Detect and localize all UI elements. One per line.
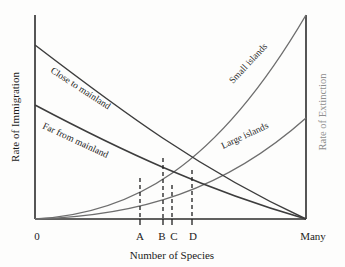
x-axis-title: Number of Species — [130, 249, 214, 261]
xtick-label-many: Many — [300, 230, 326, 242]
curve-close-to-mainland — [35, 45, 306, 219]
xtick-label-b: B — [158, 230, 165, 242]
curve-label-small-islands: Small islands — [227, 41, 269, 85]
xtick-label-a: A — [136, 230, 144, 242]
curve-label-close-to-mainland: Close to mainland — [49, 65, 113, 111]
y-axis-right-title: Rate of Extinction — [317, 73, 328, 151]
xtick-label-c: C — [170, 230, 177, 242]
island-biogeography-chart: 0 A B C D Many Number of Species Rate of… — [0, 0, 345, 267]
curve-large-islands — [35, 118, 306, 219]
chart-plot-area: 0 A B C D Many Number of Species Rate of… — [0, 0, 345, 267]
y-axis-left-title: Rate of Immigration — [9, 72, 21, 162]
xtick-label-origin: 0 — [34, 230, 40, 242]
xtick-label-d: D — [189, 230, 197, 242]
